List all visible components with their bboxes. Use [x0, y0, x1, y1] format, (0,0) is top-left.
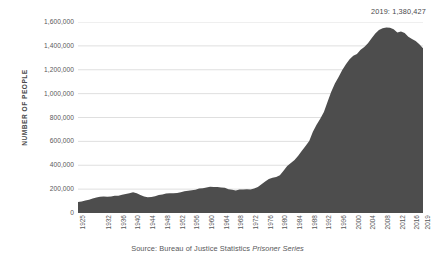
x-tick-label: 1968 — [238, 215, 244, 229]
x-tick-label: 1936 — [121, 215, 127, 229]
prison-population-area-chart: 2019: 1,380,427 NUMBER OF PEOPLE 0200,00… — [0, 0, 435, 263]
x-tick-label: 1964 — [224, 215, 230, 229]
x-tick-label: 1956 — [194, 215, 200, 229]
y-axis-tick-labels: 0200,000400,000600,000800,0001,000,0001,… — [30, 22, 74, 213]
x-tick-label: 2019 — [425, 215, 431, 229]
x-tick-label: 1972 — [253, 215, 259, 229]
y-tick-label: 1,000,000 — [44, 90, 74, 97]
y-tick-label: 200,000 — [50, 186, 74, 193]
y-tick-label: 1,200,000 — [44, 66, 74, 73]
y-axis-title: NUMBER OF PEOPLE — [17, 0, 31, 215]
caption-prefix: Source: Bureau of Justice Statistics — [131, 244, 252, 253]
source-caption: Source: Bureau of Justice Statistics Pri… — [0, 245, 435, 252]
y-tick-label: 1,600,000 — [44, 19, 74, 26]
x-tick-label: 2016 — [414, 215, 420, 229]
x-tick-label: 1932 — [106, 215, 112, 229]
plot-area — [78, 22, 423, 213]
x-tick-label: 1925 — [80, 215, 86, 229]
x-tick-label: 2012 — [400, 215, 406, 229]
y-axis-title-label: NUMBER OF PEOPLE — [21, 69, 28, 145]
x-tick-label: 1976 — [268, 215, 274, 229]
x-tick-label: 1944 — [150, 215, 156, 229]
x-tick-label: 1948 — [165, 215, 171, 229]
plot-svg — [78, 22, 423, 213]
x-tick-label: 1992 — [326, 215, 332, 229]
y-tick-label: 0 — [70, 210, 74, 217]
endpoint-annotation: 2019: 1,380,427 — [371, 8, 426, 15]
y-tick-label: 400,000 — [50, 162, 74, 169]
x-tick-label: 1940 — [135, 215, 141, 229]
x-tick-label: 1960 — [209, 215, 215, 229]
x-tick-label: 2000 — [356, 215, 362, 229]
x-tick-label: 1988 — [312, 215, 318, 229]
x-tick-label: 2008 — [385, 215, 391, 229]
x-tick-label: 1984 — [297, 215, 303, 229]
x-tick-label: 2004 — [370, 215, 376, 229]
caption-series-title: Prisoner Series — [252, 244, 304, 253]
y-tick-label: 1,400,000 — [44, 43, 74, 50]
y-tick-label: 600,000 — [50, 138, 74, 145]
y-tick-label: 800,000 — [50, 114, 74, 121]
x-axis-tick-labels: 1925193219361940194419481952195619601964… — [78, 215, 423, 245]
x-tick-label: 1996 — [341, 215, 347, 229]
area-series-prison-population — [78, 28, 423, 213]
x-tick-label: 1980 — [282, 215, 288, 229]
x-tick-label: 1952 — [180, 215, 186, 229]
